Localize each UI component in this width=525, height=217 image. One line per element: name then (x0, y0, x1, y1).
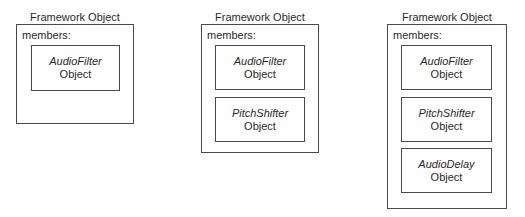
framework-object-title-3: Framework Object (387, 11, 507, 23)
member-object-pitchshifter: PitchShifter Object (215, 97, 305, 142)
member-object-pitchshifter: PitchShifter Object (401, 97, 492, 142)
framework-object-box-2: members: AudioFilter Object PitchShifter… (201, 24, 319, 153)
framework-object-title-1: Framework Object (16, 11, 134, 23)
member-object-label: Object (60, 68, 92, 81)
member-class-name: PitchShifter (418, 107, 474, 120)
members-label: members: (393, 29, 442, 41)
member-object-label: Object (244, 68, 276, 81)
member-object-audiofilter: AudioFilter Object (401, 45, 492, 90)
member-class-name: AudioFilter (420, 55, 473, 68)
member-object-audiodelay: AudioDelay Object (401, 148, 492, 193)
member-class-name: PitchShifter (232, 107, 288, 120)
framework-object-box-3: members: AudioFilter Object PitchShifter… (387, 24, 507, 209)
member-class-name: AudioFilter (234, 55, 287, 68)
member-object-label: Object (431, 120, 463, 133)
members-label: members: (207, 29, 256, 41)
member-object-audiofilter: AudioFilter Object (215, 45, 305, 90)
member-object-label: Object (431, 171, 463, 184)
member-object-audiofilter: AudioFilter Object (31, 45, 120, 91)
framework-object-box-1: members: AudioFilter Object (16, 24, 134, 124)
member-class-name: AudioDelay (418, 158, 474, 171)
member-object-label: Object (431, 68, 463, 81)
members-label: members: (22, 29, 71, 41)
member-object-label: Object (244, 120, 276, 133)
member-class-name: AudioFilter (49, 55, 102, 68)
framework-object-title-2: Framework Object (201, 11, 319, 23)
